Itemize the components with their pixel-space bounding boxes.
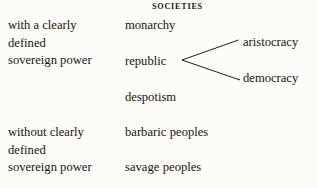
upper-group-condition: with a clearly defined sovereign power	[8, 17, 92, 70]
node-aristocracy: aristocracy	[243, 34, 298, 52]
lower-group-condition: without clearly defined sovereign power	[8, 124, 92, 177]
upper-condition-line-2: defined	[8, 35, 92, 53]
node-democracy: democracy	[243, 70, 298, 88]
upper-condition-line-1: with a clearly	[8, 17, 92, 35]
node-barbaric-peoples: barbaricpeoples	[125, 124, 208, 142]
node-despotism: despotism	[125, 89, 176, 107]
lower-condition-line-2: defined	[8, 142, 92, 160]
node-barbaric-word-1: barbaric	[125, 125, 166, 139]
node-republic: republic	[125, 53, 166, 71]
node-savage-peoples: savagepeoples	[125, 159, 201, 177]
node-savage-word-1: savage	[125, 160, 159, 174]
node-savage-word-2: peoples	[159, 160, 201, 174]
lower-condition-line-1: without clearly	[8, 124, 92, 142]
upper-condition-line-3: sovereign power	[8, 52, 92, 70]
node-monarchy: monarchy	[125, 17, 175, 35]
connector-line-aristocracy	[182, 40, 239, 60]
node-barbaric-word-2: peoples	[166, 125, 208, 139]
connector-line-democracy	[182, 60, 240, 80]
lower-condition-line-3: sovereign power	[8, 159, 92, 177]
diagram-title: SOCIETIES	[152, 2, 203, 11]
societies-taxonomy-diagram: SOCIETIES with a clearly defined soverei…	[0, 0, 317, 188]
